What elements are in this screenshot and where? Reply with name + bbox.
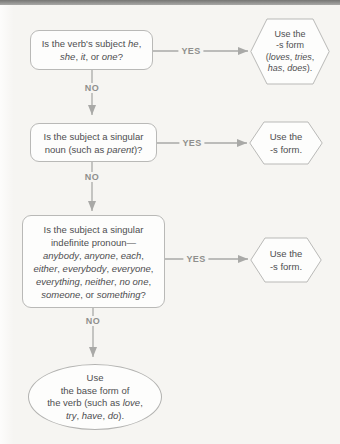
question-box-1-line: Is the verb's subject he, (31, 37, 152, 50)
yes-label-1: YES (178, 46, 203, 56)
question-box-3-line: someone, or something? (23, 288, 164, 301)
result-hexagon-3: Use the -s form. (250, 237, 322, 283)
result-hexagon-1: Use the -s form (loves, tries, has, does… (250, 18, 330, 85)
no-label-3: NO (83, 316, 103, 326)
final-ellipse-line: Use (29, 372, 161, 385)
result-hexagon-2-text: Use the -s form. (249, 130, 323, 156)
result-hexagon-2: Use the -s form. (249, 121, 323, 165)
final-ellipse-line: the verb (such as love, (29, 397, 161, 410)
question-box-3-line: indefinite pronoun— (23, 236, 164, 249)
final-ellipse-line: the base form of (29, 385, 161, 398)
yes-label-2: YES (179, 138, 204, 148)
question-box-3: Is the subject a singular indefinite pro… (22, 215, 165, 308)
result-hexagon-1-text: Use the -s form (loves, tries, has, does… (250, 29, 330, 75)
flowchart: Is the verb's subject he, she, it, or on… (0, 0, 340, 444)
question-box-3-line: everything, neither, no one, (23, 275, 164, 288)
top-bar (0, 0, 340, 5)
question-box-2-line: noun (such as parent)? (31, 143, 156, 156)
question-box-1-line: she, it, or one? (31, 50, 152, 63)
no-label-1: NO (82, 83, 102, 93)
no-label-2: NO (82, 172, 102, 182)
question-box-3-line: Is the subject a singular (23, 223, 164, 236)
question-box-1: Is the verb's subject he, she, it, or on… (30, 30, 153, 70)
question-box-3-line: anybody, anyone, each, (23, 249, 164, 262)
final-ellipse-line: try, have, do). (29, 410, 161, 423)
yes-label-3: YES (183, 254, 208, 264)
question-box-3-line: either, everybody, everyone, (23, 262, 164, 275)
result-hexagon-3-text: Use the -s form. (250, 247, 322, 273)
final-ellipse: Use the base form of the verb (such as l… (28, 364, 162, 430)
question-box-2: Is the subject a singular noun (such as … (30, 123, 157, 162)
question-box-2-line: Is the subject a singular (31, 130, 156, 143)
